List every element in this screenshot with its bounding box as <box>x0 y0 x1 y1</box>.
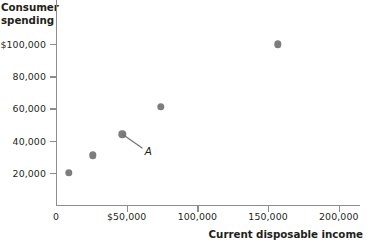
y-tick-mark <box>50 141 56 142</box>
y-tick-label: 20,000 <box>13 167 46 178</box>
y-tick-mark <box>50 76 56 77</box>
y-tick-label: 80,000 <box>13 71 46 82</box>
x-tick-label: 150,000 <box>248 211 287 222</box>
point-label-a: A <box>145 145 152 157</box>
x-axis-title: Current disposable income <box>209 228 363 240</box>
y-tick-mark <box>50 173 56 174</box>
y-tick-label: 60,000 <box>13 103 46 114</box>
x-tick-label: $50,000 <box>107 211 146 222</box>
y-axis-title: Consumer spending <box>1 1 53 26</box>
y-axis-title-line-2: spending <box>1 14 53 27</box>
y-axis-line <box>56 0 57 206</box>
data-point <box>157 103 164 110</box>
x-tick-label: 100,000 <box>178 211 217 222</box>
data-point <box>274 40 281 47</box>
x-tick-label: 200,000 <box>319 211 358 222</box>
scatter-chart: Consumer spending 20,00040,00060,00080,0… <box>0 0 367 248</box>
y-tick-label: $100,000 <box>0 39 46 50</box>
y-tick-mark <box>50 44 56 45</box>
data-point <box>65 169 72 176</box>
y-axis-title-line-1: Consumer <box>1 1 53 14</box>
data-point <box>89 151 96 158</box>
y-tick-mark <box>50 108 56 109</box>
x-axis-line <box>56 205 360 206</box>
y-tick-label: 40,000 <box>13 135 46 146</box>
data-point <box>119 131 126 138</box>
x-tick-label: 0 <box>53 211 59 222</box>
